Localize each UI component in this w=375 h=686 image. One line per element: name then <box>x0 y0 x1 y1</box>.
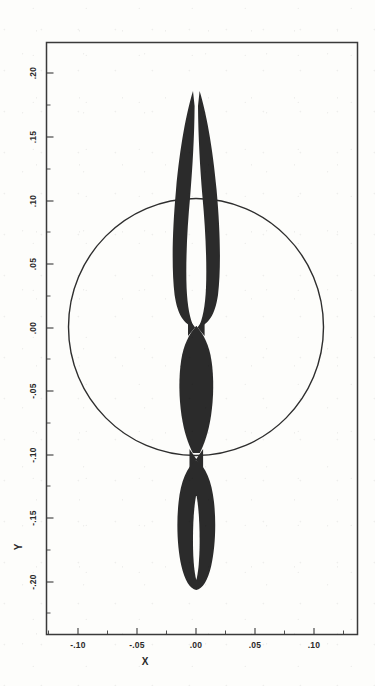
y-tick-label: -.20 <box>28 574 38 590</box>
y-tick-label: -.05 <box>28 383 38 399</box>
y-axis-title: Y <box>13 543 24 550</box>
plot-figure: .20 .15 .10 .05 .00 -.05 -.10 -.15 -.20 … <box>0 0 375 686</box>
scatter-plot-canvas: .20 .15 .10 .05 .00 -.05 -.10 -.15 -.20 … <box>0 0 375 686</box>
x-tick-label: -.05 <box>129 640 145 650</box>
x-axis-title: X <box>142 656 149 667</box>
y-tick-label: .05 <box>28 258 38 270</box>
y-tick-label: -.15 <box>28 510 38 526</box>
x-tick-label: .05 <box>249 640 261 650</box>
y-tick-label: .00 <box>28 322 38 334</box>
x-tick-label: .10 <box>308 640 320 650</box>
y-tick-label: .15 <box>28 131 38 143</box>
x-tick-label: -.10 <box>70 640 86 650</box>
y-tick-label: .10 <box>28 195 38 207</box>
y-tick-label: -.10 <box>28 447 38 463</box>
y-tick-label: .20 <box>28 67 38 79</box>
x-tick-label: .00 <box>190 640 202 650</box>
